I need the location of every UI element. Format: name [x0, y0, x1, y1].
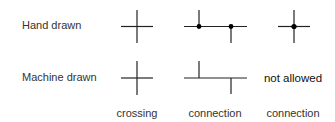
- machine-drawn-crossing-symbol: [121, 61, 153, 95]
- junction-dot: [197, 24, 202, 29]
- column-label-connection-right: connection: [266, 107, 319, 120]
- machine-drawn-connection-symbol: [184, 61, 247, 94]
- junction-dot: [291, 24, 296, 29]
- hand-drawn-crossing-symbol: [121, 10, 153, 43]
- column-label-crossing: crossing: [117, 107, 158, 120]
- junction-dot: [229, 24, 234, 29]
- hand-drawn-connection-symbol: [184, 10, 247, 43]
- junction-diagram: [0, 0, 335, 122]
- not-allowed-label: not allowed: [264, 72, 322, 85]
- column-label-connection: connection: [188, 107, 241, 120]
